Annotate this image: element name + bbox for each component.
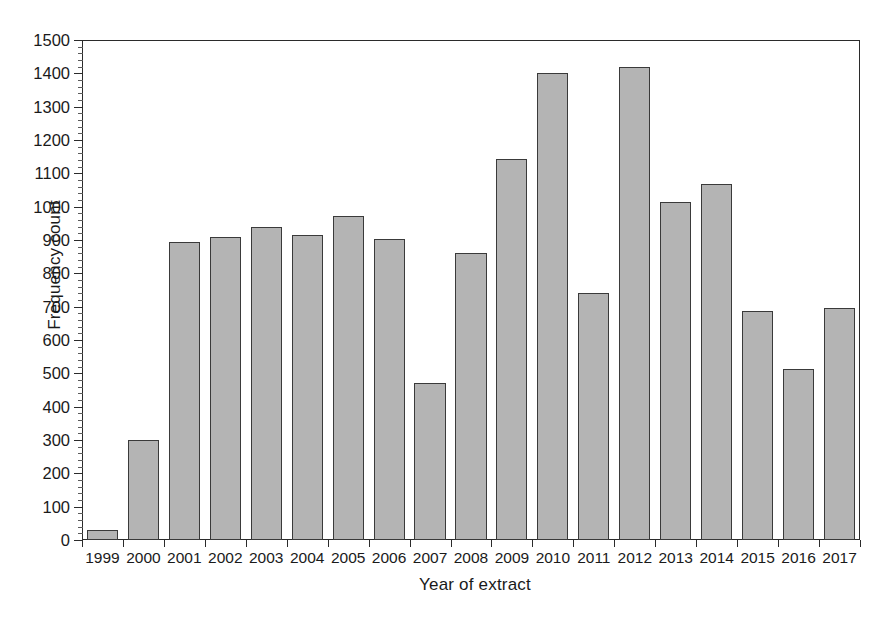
y-minor-tick: [78, 133, 83, 134]
y-tick-label: 1200: [0, 132, 70, 148]
y-tick-800: [74, 273, 83, 274]
y-tick-200: [74, 473, 83, 474]
y-tick-700: [74, 307, 83, 308]
x-axis-title: Year of extract: [80, 575, 870, 595]
x-tick-label: 2011: [573, 549, 614, 567]
bar-2002: [210, 237, 241, 540]
x-tick-2000: [123, 540, 124, 547]
y-minor-tick: [78, 120, 83, 121]
y-minor-tick: [78, 187, 83, 188]
y-minor-tick: [78, 533, 83, 534]
y-minor-tick: [78, 80, 83, 81]
y-tick-label: 700: [0, 299, 70, 315]
y-minor-tick: [78, 380, 83, 381]
y-tick-300: [74, 440, 83, 441]
bar-2005: [333, 216, 364, 540]
y-minor-tick: [78, 93, 83, 94]
y-minor-tick: [78, 447, 83, 448]
y-minor-tick: [78, 67, 83, 68]
y-minor-tick: [78, 300, 83, 301]
y-minor-tick: [78, 433, 83, 434]
x-tick-label: 2014: [696, 549, 737, 567]
bar-2013: [660, 202, 691, 540]
y-minor-tick: [78, 247, 83, 248]
bar-2001: [169, 242, 200, 540]
bar-2014: [701, 184, 732, 540]
x-tick-label: 2002: [205, 549, 246, 567]
y-tick-label: 1300: [0, 99, 70, 115]
y-tick-label: 0: [0, 532, 70, 548]
x-tick-2006: [369, 540, 370, 547]
y-minor-tick: [78, 60, 83, 61]
y-minor-tick: [78, 113, 83, 114]
y-tick-600: [74, 340, 83, 341]
x-tick-label: 2001: [164, 549, 205, 567]
y-minor-tick: [78, 387, 83, 388]
y-minor-tick: [78, 147, 83, 148]
y-minor-tick: [78, 180, 83, 181]
y-minor-tick: [78, 227, 83, 228]
x-tick-2002: [205, 540, 206, 547]
y-minor-tick: [78, 427, 83, 428]
y-tick-label: 400: [0, 399, 70, 415]
y-tick-400: [74, 407, 83, 408]
y-minor-tick: [78, 393, 83, 394]
bar-1999: [87, 530, 118, 540]
y-minor-tick: [78, 260, 83, 261]
y-minor-tick: [78, 367, 83, 368]
y-minor-tick: [78, 347, 83, 348]
bar-2016: [783, 369, 814, 540]
bar-chart-figure: Frequency count 010020030040050060070080…: [0, 0, 882, 617]
x-tick-label: 2003: [246, 549, 287, 567]
y-minor-tick: [78, 220, 83, 221]
y-tick-500: [74, 373, 83, 374]
y-minor-tick: [78, 127, 83, 128]
x-tick-label: 2009: [491, 549, 532, 567]
y-minor-tick: [78, 280, 83, 281]
bar-2011: [578, 293, 609, 540]
x-tick-label: 2012: [614, 549, 655, 567]
y-minor-tick: [78, 333, 83, 334]
y-tick-label: 300: [0, 432, 70, 448]
y-tick-label: 200: [0, 465, 70, 481]
x-tick-1999: [82, 540, 83, 547]
y-tick-900: [74, 240, 83, 241]
y-tick-label: 1100: [0, 165, 70, 181]
bar-2010: [537, 73, 568, 540]
bar-2017: [824, 308, 855, 540]
x-tick-2014: [696, 540, 697, 547]
x-tick-end: [860, 540, 861, 547]
x-tick-2017: [819, 540, 820, 547]
y-tick-label: 800: [0, 265, 70, 281]
y-minor-tick: [78, 527, 83, 528]
y-minor-tick: [78, 200, 83, 201]
y-minor-tick: [78, 47, 83, 48]
bar-2004: [292, 235, 323, 540]
y-minor-tick: [78, 167, 83, 168]
y-minor-tick: [78, 193, 83, 194]
x-tick-2003: [246, 540, 247, 547]
y-minor-tick: [78, 53, 83, 54]
x-tick-label: 1999: [82, 549, 123, 567]
y-tick-1500: [74, 40, 83, 41]
bar-2012: [619, 67, 650, 540]
y-minor-tick: [78, 353, 83, 354]
x-tick-2016: [778, 540, 779, 547]
bar-2007: [414, 383, 445, 540]
bar-2008: [455, 253, 486, 540]
y-minor-tick: [78, 453, 83, 454]
bar-2003: [251, 227, 282, 540]
y-tick-label: 500: [0, 365, 70, 381]
y-minor-tick: [78, 460, 83, 461]
bar-2000: [128, 440, 159, 540]
x-tick-2013: [655, 540, 656, 547]
y-tick-1200: [74, 140, 83, 141]
y-minor-tick: [78, 153, 83, 154]
x-tick-2005: [328, 540, 329, 547]
y-tick-1300: [74, 107, 83, 108]
y-minor-tick: [78, 287, 83, 288]
x-tick-label: 2007: [410, 549, 451, 567]
y-tick-label: 1500: [0, 32, 70, 48]
x-tick-2008: [451, 540, 452, 547]
y-minor-tick: [78, 513, 83, 514]
